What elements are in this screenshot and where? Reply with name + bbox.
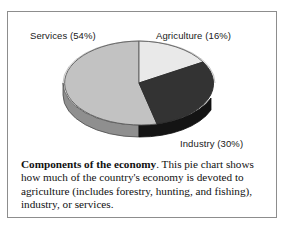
pie-label-agriculture: Agriculture (16%) — [156, 30, 231, 41]
pie-label-industry: Industry (30%) — [180, 138, 243, 149]
pie-top-face — [65, 41, 214, 125]
pie-label-services: Services (54%) — [30, 30, 96, 41]
caption-title: Components of the economy — [21, 158, 156, 170]
figure-frame: Services (54%) Agriculture (16%) Industr… — [7, 11, 277, 218]
pie-chart: Services (54%) Agriculture (16%) Industr… — [8, 12, 277, 150]
figure-caption: Components of the economy. This pie char… — [21, 158, 266, 212]
